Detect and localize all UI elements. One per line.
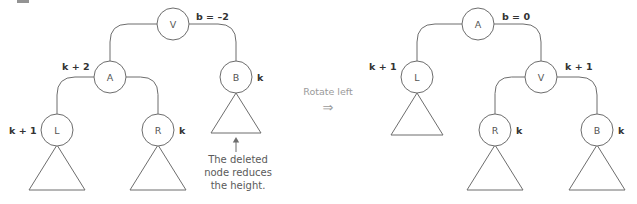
node-label-b: B [233,72,240,83]
annotation-b-height: k [257,72,264,83]
annotation-a-balance: b = 0 [502,11,530,22]
caption-pointer-arrowhead [233,137,239,143]
subtree-triangle-b-subtree [569,145,625,190]
node-l[interactable]: L [401,61,433,93]
node-label-l: L [414,72,420,83]
subtree-triangle-l-subtree [29,145,85,190]
annotation-r-height: k [179,125,186,136]
edge-v-to-a [110,24,157,61]
node-r[interactable]: R [479,114,511,146]
node-label-l: L [54,125,60,136]
rotate-arrow-icon: ⇒ [323,100,334,115]
edge-a-to-l [57,77,94,114]
node-label-r: R [155,125,162,136]
node-a[interactable]: A [94,61,126,93]
node-r[interactable]: R [142,114,174,146]
subtree-triangle-r-subtree [130,145,186,190]
caption-line-2: the height. [211,180,266,191]
edge-v-to-b [189,24,236,61]
edge-v-to-r [495,77,525,114]
transition-group: Rotate left ⇒ [303,86,353,115]
node-label-a: A [107,72,114,83]
annotation-v-height: k + 1 [565,61,593,72]
subtree-triangle-l-subtree [391,93,443,135]
node-l[interactable]: L [41,114,73,146]
avl-rotation-figure: VABLRb = –2k + 2kk + 1kThe deletednode r… [0,0,637,204]
caption-line-1: node reduces [204,167,272,178]
edge-a-to-l [417,24,462,61]
subtree-triangle-r-subtree [467,145,523,190]
edge-a-to-v [494,24,541,61]
edge-v-to-b [557,77,597,114]
annotation-b-height: k [618,125,625,136]
annotation-v-balance: b = –2 [196,11,229,22]
annotation-a-height: k + 2 [62,61,90,72]
after-rotation-tree: ALVRBb = 0k + 1k + 1kk [369,8,625,190]
annotation-r-height: k [516,125,523,136]
caption-line-0: The deleted [207,154,268,165]
node-b[interactable]: B [220,61,252,93]
subtree-triangle-b-subtree [211,93,261,133]
figure-canvas: VABLRb = –2k + 2kk + 1kThe deletednode r… [0,0,637,204]
rotate-left-label: Rotate left [303,86,353,97]
caption-deleted-node-caption: The deletednode reducesthe height. [204,137,272,191]
node-label-b: B [594,125,601,136]
edge-a-to-r [126,77,158,114]
annotation-l-height: k + 1 [9,125,37,136]
node-label-r: R [492,125,499,136]
node-v[interactable]: V [157,8,189,40]
node-a[interactable]: A [462,8,494,40]
node-v[interactable]: V [525,61,557,93]
annotation-l-height: k + 1 [369,61,397,72]
before-rotation-tree: VABLRb = –2k + 2kk + 1kThe deletednode r… [9,8,272,191]
node-label-a: A [475,19,482,30]
node-label-v: V [538,72,545,83]
node-label-v: V [170,19,177,30]
node-b[interactable]: B [581,114,613,146]
